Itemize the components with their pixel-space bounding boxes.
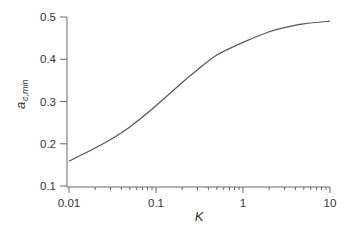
y-tick-label: 0.5 xyxy=(40,11,56,23)
axes: 0.10.20.30.40.50.010.1110 xyxy=(40,11,336,209)
y-tick-label: 0.3 xyxy=(40,96,56,108)
x-tick-label: 1 xyxy=(240,197,246,209)
x-tick-label: 10 xyxy=(324,197,337,209)
data-line xyxy=(69,21,330,161)
x-axis-label: K xyxy=(195,209,205,224)
x-tick-label: 0.1 xyxy=(148,197,164,209)
y-axis-label: a c,min xyxy=(13,79,30,109)
svg-text:c,min: c,min xyxy=(20,79,30,101)
y-tick-label: 0.4 xyxy=(40,53,57,65)
y-tick-label: 0.1 xyxy=(40,180,56,192)
y-tick-label: 0.2 xyxy=(40,138,56,150)
x-tick-label: 0.01 xyxy=(58,197,80,209)
svg-text:a: a xyxy=(13,102,28,109)
chart: 0.10.20.30.40.50.010.1110 K a c,min xyxy=(0,0,353,244)
